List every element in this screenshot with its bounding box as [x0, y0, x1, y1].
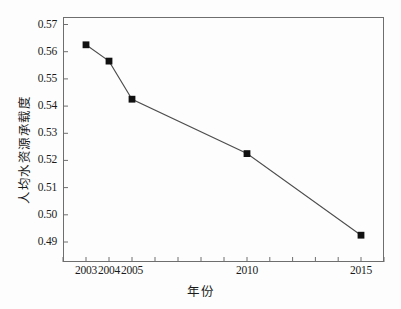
y-axis-title: 人均水资源承载度 — [14, 75, 33, 225]
data-point-marker — [358, 232, 365, 239]
data-markers-series-0 — [83, 41, 365, 238]
x-axis-ticks — [63, 257, 384, 262]
data-point-marker — [106, 58, 113, 65]
x-axis-title: 年份 — [0, 281, 401, 300]
data-point-marker — [83, 41, 90, 48]
data-point-marker — [129, 96, 136, 103]
chart-figure: 0.57 0.56 0.55 0.54 0.53 0.52 0.51 0.50 … — [0, 0, 401, 309]
data-line-series-0 — [86, 45, 361, 235]
data-point-marker — [244, 150, 251, 157]
y-axis-ticks — [63, 25, 68, 243]
plot-svg — [0, 0, 401, 309]
